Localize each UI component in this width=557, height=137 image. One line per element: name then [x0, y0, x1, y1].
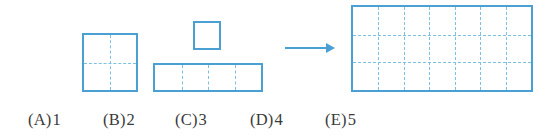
answer-choice-a[interactable]: (A)1: [28, 103, 61, 137]
answer-choice-c-value: 3: [199, 110, 207, 129]
shape-unit-square: [193, 21, 221, 50]
grid-divider-horizontal: [84, 63, 136, 64]
answer-choice-e-value: 5: [348, 110, 356, 129]
answer-choice-d[interactable]: (D)4: [250, 103, 283, 137]
answer-choice-a-value: 1: [53, 110, 61, 129]
answer-choice-b-label: (B): [103, 110, 126, 129]
grid-divider-vertical: [208, 65, 209, 90]
figure-canvas: (A)1 (B)2 (C)3 (D)4 (E)5: [0, 0, 557, 137]
answer-choice-d-label: (D): [250, 110, 274, 129]
arrow-shaft: [285, 47, 327, 49]
grid-divider-vertical: [480, 7, 481, 90]
answer-choice-a-label: (A): [28, 110, 52, 129]
answer-choice-e[interactable]: (E)5: [325, 103, 356, 137]
grid-divider-horizontal: [353, 62, 531, 63]
answer-choice-list: (A)1 (B)2 (C)3 (D)4 (E)5: [0, 103, 557, 137]
answer-choice-d-value: 4: [275, 110, 283, 129]
shape-rectangle-7x3: [351, 5, 533, 92]
grid-divider-vertical: [506, 7, 507, 90]
answer-choice-c[interactable]: (C)3: [175, 103, 207, 137]
grid-divider-horizontal: [353, 35, 531, 36]
answer-choice-c-label: (C): [175, 110, 198, 129]
arrow-head-icon: [326, 43, 335, 53]
shape-row-1x4: [153, 63, 263, 92]
grid-divider-vertical: [378, 7, 379, 90]
grid-divider-vertical: [455, 7, 456, 90]
answer-choice-b-value: 2: [127, 110, 135, 129]
answer-choice-e-label: (E): [325, 110, 347, 129]
grid-divider-vertical: [182, 65, 183, 90]
shape-square-2x2: [82, 33, 138, 92]
grid-divider-vertical: [404, 7, 405, 90]
grid-divider-vertical: [235, 65, 236, 90]
transform-arrow: [285, 42, 335, 54]
grid-divider-vertical: [429, 7, 430, 90]
answer-choice-b[interactable]: (B)2: [103, 103, 135, 137]
